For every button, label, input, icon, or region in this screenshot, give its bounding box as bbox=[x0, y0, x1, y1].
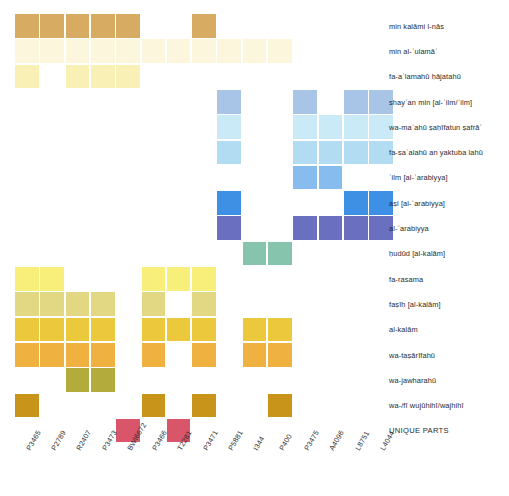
heatmap-cell bbox=[40, 343, 64, 367]
heatmap-row-label: faṣīḥ [al-kalām] bbox=[389, 300, 441, 309]
heatmap-cell bbox=[217, 115, 241, 139]
heatmap-cell bbox=[142, 343, 166, 367]
heatmap-cell bbox=[192, 292, 216, 316]
heatmap-cell bbox=[344, 216, 368, 240]
heatmap-cell bbox=[15, 318, 39, 342]
heatmap-cell bbox=[15, 267, 39, 291]
heatmap-cell bbox=[217, 90, 241, 114]
heatmap-cell bbox=[167, 318, 191, 342]
heatmap-cell bbox=[116, 39, 140, 63]
heatmap-row-label: al-kalām bbox=[389, 325, 418, 334]
heatmap-cell bbox=[142, 318, 166, 342]
heatmap-column-label: L4044 bbox=[379, 430, 396, 452]
heatmap-cell bbox=[142, 39, 166, 63]
heatmap-cell bbox=[15, 292, 39, 316]
heatmap-row-label: al-ʿarabiyya bbox=[389, 224, 429, 233]
heatmap-cell bbox=[142, 394, 166, 418]
heatmap-row-label: wa-/fī wujūhihī/wajhihī bbox=[389, 401, 464, 410]
heatmap-cell bbox=[15, 343, 39, 367]
heatmap-cell bbox=[66, 65, 90, 89]
heatmap-row-label: aṣl [al-ʿarabiyya] bbox=[389, 199, 445, 208]
heatmap-cell bbox=[243, 318, 267, 342]
heatmap-cell bbox=[268, 394, 292, 418]
heatmap-cell bbox=[91, 368, 115, 392]
heatmap-cell bbox=[344, 141, 368, 165]
heatmap-cell bbox=[268, 242, 292, 266]
heatmap-cell bbox=[91, 292, 115, 316]
heatmap-cell bbox=[91, 39, 115, 63]
heatmap-cell bbox=[268, 343, 292, 367]
heatmap-cell bbox=[243, 39, 267, 63]
heatmap-cell bbox=[293, 216, 317, 240]
heatmap-cell bbox=[293, 115, 317, 139]
heatmap-column-label: P3465 bbox=[25, 429, 43, 452]
heatmap-cell bbox=[116, 14, 140, 38]
heatmap-cell bbox=[15, 65, 39, 89]
heatmap-column-label: L8751 bbox=[354, 430, 371, 452]
heatmap-row-label: ʿilm [al-ʿarabiyya] bbox=[389, 173, 448, 182]
heatmap-column-label: R2407 bbox=[75, 429, 93, 452]
heatmap-cell bbox=[91, 318, 115, 342]
heatmap-cell bbox=[217, 39, 241, 63]
heatmap-cell bbox=[40, 267, 64, 291]
heatmap-cell bbox=[66, 14, 90, 38]
heatmap-cell bbox=[268, 318, 292, 342]
heatmap-cell bbox=[40, 39, 64, 63]
heatmap-cell bbox=[243, 343, 267, 367]
heatmap-cell bbox=[91, 14, 115, 38]
heatmap-cell bbox=[142, 292, 166, 316]
heatmap-row-label: min kalāmi l-nās bbox=[389, 22, 444, 31]
heatmap-cell bbox=[293, 141, 317, 165]
heatmap-cell bbox=[66, 292, 90, 316]
heatmap-cell bbox=[66, 39, 90, 63]
heatmap-row-label: wa-taṣārīfahū bbox=[389, 351, 435, 360]
heatmap-cell bbox=[319, 166, 343, 190]
heatmap-cell bbox=[192, 14, 216, 38]
heatmap-cell bbox=[40, 292, 64, 316]
heatmap-cell bbox=[344, 115, 368, 139]
heatmap-column-label: P3471 bbox=[202, 429, 220, 452]
heatmap-cell bbox=[40, 318, 64, 342]
heatmap-cell bbox=[192, 39, 216, 63]
heatmap-cell bbox=[192, 318, 216, 342]
heatmap-chart: min kalāmi l-nāsmin al-ʿulamāʾfa-aʿlamah… bbox=[0, 0, 509, 496]
heatmap-row-label: UNIQUE PARTS bbox=[389, 426, 449, 435]
heatmap-row-label: min al-ʿulamāʾ bbox=[389, 47, 438, 56]
heatmap-cell bbox=[344, 90, 368, 114]
heatmap-cell bbox=[319, 115, 343, 139]
heatmap-column-label: I344 bbox=[252, 435, 266, 452]
heatmap-cell bbox=[91, 343, 115, 367]
heatmap-row-label: ḥudūd [al-kalām] bbox=[389, 249, 445, 258]
heatmap-cell bbox=[66, 368, 90, 392]
heatmap-column-label: P400 bbox=[278, 433, 294, 452]
heatmap-column-label: P3475 bbox=[303, 429, 321, 452]
heatmap-cell bbox=[192, 343, 216, 367]
heatmap-row-label: fa-rasama bbox=[389, 275, 423, 284]
heatmap-cell bbox=[15, 394, 39, 418]
heatmap-row-label: shayʾan min [al-ʿilm/ʿilm] bbox=[389, 98, 472, 107]
heatmap-cell bbox=[66, 318, 90, 342]
heatmap-column-label: P5881 bbox=[227, 429, 245, 452]
heatmap-cell bbox=[167, 267, 191, 291]
heatmap-cell bbox=[116, 65, 140, 89]
heatmap-cell bbox=[15, 14, 39, 38]
heatmap-cell bbox=[217, 216, 241, 240]
heatmap-cell bbox=[40, 14, 64, 38]
heatmap-row-label: wa-maʿahū ṣaḥīfatun ṣafrāʾ bbox=[389, 123, 482, 132]
heatmap-cell bbox=[268, 39, 292, 63]
heatmap-column-label: A4096 bbox=[328, 429, 346, 452]
heatmap-cell bbox=[192, 394, 216, 418]
heatmap-cell bbox=[344, 191, 368, 215]
heatmap-row-label: wa-jawharahū bbox=[389, 376, 436, 385]
heatmap-cell bbox=[192, 267, 216, 291]
heatmap-column-label: P2789 bbox=[50, 429, 68, 452]
heatmap-cell bbox=[66, 343, 90, 367]
heatmap-cell bbox=[293, 166, 317, 190]
heatmap-cell bbox=[167, 39, 191, 63]
heatmap-cell bbox=[217, 141, 241, 165]
heatmap-cell bbox=[319, 216, 343, 240]
heatmap-cell bbox=[319, 141, 343, 165]
heatmap-cell bbox=[293, 90, 317, 114]
heatmap-cell bbox=[91, 65, 115, 89]
heatmap-row-label: fa-saʾalahū an yaktuba lahū bbox=[389, 148, 483, 157]
